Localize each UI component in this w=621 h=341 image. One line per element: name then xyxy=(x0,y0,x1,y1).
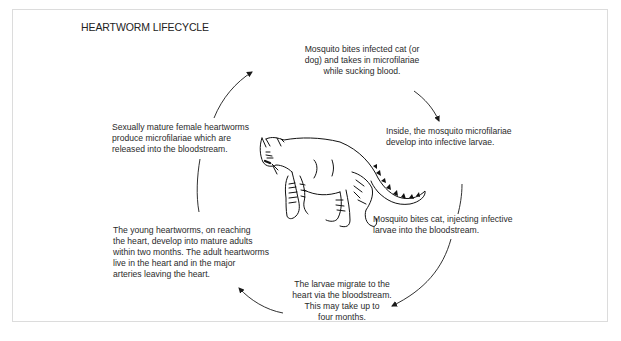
arrow-top-right-icon xyxy=(414,91,439,121)
arrow-right-icon xyxy=(458,184,462,214)
arrow-left-icon xyxy=(197,159,200,212)
arrow-bottom-right-icon xyxy=(392,239,451,306)
arrow-bottom-left-icon xyxy=(239,288,283,313)
cycle-arrows xyxy=(0,0,621,341)
arrow-top-left-icon xyxy=(214,72,252,118)
cat-illustration-icon xyxy=(260,137,425,226)
